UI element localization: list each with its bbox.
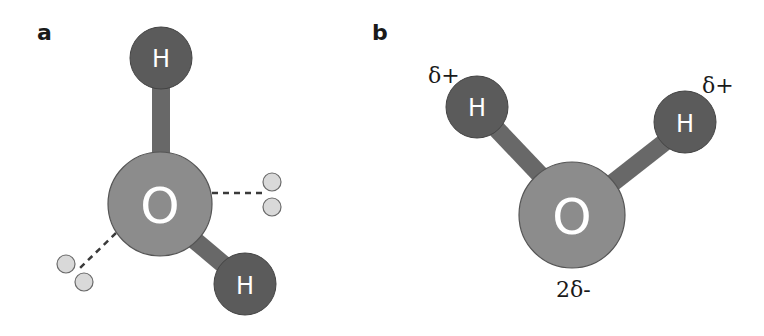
hydrogen-symbol: H: [236, 272, 254, 300]
partial-charge-left: δ+: [428, 63, 460, 88]
lone-pair-dot: [57, 255, 75, 273]
bond-o-h-left: [490, 122, 545, 180]
panel-b-label: b: [372, 20, 388, 45]
hydrogen-symbol: H: [676, 110, 694, 138]
water-molecule-diagram: a H O H b H H O δ+ δ+ 2δ: [0, 0, 764, 336]
partial-charge-right: δ+: [702, 73, 734, 98]
oxygen-symbol: O: [552, 188, 591, 246]
partial-charge-oxygen: 2δ-: [556, 277, 591, 302]
bond-o-h-right: [610, 138, 670, 185]
panel-b: b H H O δ+ δ+ 2δ-: [372, 20, 734, 302]
lone-pair-dot: [75, 273, 93, 291]
oxygen-symbol: O: [140, 177, 179, 235]
panel-a-label: a: [37, 20, 52, 45]
lone-pair-dot: [263, 173, 281, 191]
hydrogen-bond-dash-lower-left: [80, 233, 116, 268]
panel-a: a H O H: [37, 20, 281, 315]
lone-pair-dot: [263, 198, 281, 216]
hydrogen-symbol: H: [152, 45, 170, 73]
hydrogen-symbol: H: [468, 94, 486, 122]
